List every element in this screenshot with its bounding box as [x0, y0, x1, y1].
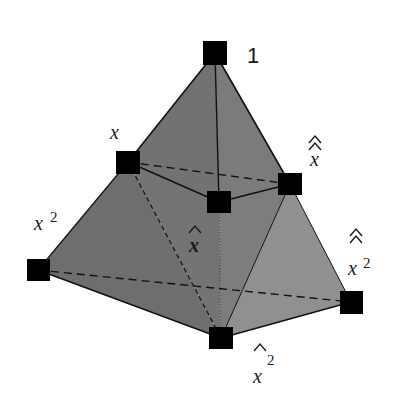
label-x2-base: x: [33, 212, 43, 234]
double-hat-icon-xhathat2-lower: [350, 236, 362, 243]
vertex-xhat2: [209, 327, 233, 349]
faces: [38, 53, 351, 338]
vertex-xhathat2: [340, 291, 363, 314]
vertex-xhathat: [278, 173, 302, 195]
label-xhat2-base: x: [252, 365, 262, 387]
diagram-stage: 1 x x x x 2 2 x x 2: [0, 0, 395, 413]
label-xhathat2-exp: 2: [363, 255, 371, 271]
label-xhat2-exp: 2: [267, 352, 275, 368]
label-xhathat2-base: x: [347, 257, 357, 279]
hat-icon-xhat2: [254, 344, 266, 351]
polytope-diagram: 1 x x x x 2 2 x x 2: [0, 0, 395, 413]
label-xhathat: x: [309, 148, 319, 170]
label-xhat: x: [188, 234, 199, 256]
vertex-xhat: [207, 191, 231, 213]
label-x2-exp: 2: [50, 209, 58, 225]
label-x: x: [109, 121, 119, 143]
label-one: 1: [247, 43, 259, 68]
vertex-one: [203, 41, 227, 65]
vertex-x2: [27, 259, 50, 281]
vertex-x: [116, 151, 140, 174]
